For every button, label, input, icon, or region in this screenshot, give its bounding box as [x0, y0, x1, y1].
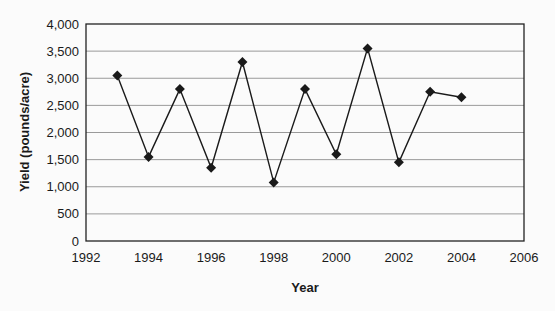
y-tick-label: 3,500	[46, 44, 79, 59]
diamond-marker	[363, 43, 373, 53]
gridlines	[86, 51, 524, 214]
diamond-marker	[456, 92, 466, 102]
y-axis-label: Yield (pounds/acre)	[17, 72, 32, 192]
y-axis-ticks: 05001,0001,5002,0002,5003,0003,5004,000	[46, 17, 79, 249]
diamond-marker	[237, 57, 247, 67]
y-tick-label: 0	[72, 234, 79, 249]
y-tick-label: 3,000	[46, 71, 79, 86]
diamond-marker	[269, 177, 279, 187]
diamond-marker	[394, 157, 404, 167]
diamond-marker	[300, 84, 310, 94]
x-tick-label: 1994	[134, 250, 163, 265]
diamond-marker	[331, 149, 341, 159]
x-axis-label: Year	[291, 280, 318, 295]
x-tick-label: 2006	[510, 250, 539, 265]
diamond-marker	[112, 71, 122, 81]
x-axis-ticks: 19921994199619982000200220042006	[72, 250, 539, 265]
diamond-marker	[206, 163, 216, 173]
x-tick-label: 2004	[447, 250, 476, 265]
x-tick-label: 1996	[197, 250, 226, 265]
diamond-marker	[175, 84, 185, 94]
y-tick-label: 1,000	[46, 179, 79, 194]
y-tick-label: 4,000	[46, 17, 79, 32]
x-tick-label: 1998	[259, 250, 288, 265]
y-tick-label: 500	[57, 206, 79, 221]
y-tick-label: 1,500	[46, 152, 79, 167]
diamond-marker	[144, 152, 154, 162]
yield-line-chart: 05001,0001,5002,0002,5003,0003,5004,000 …	[0, 0, 555, 311]
diamond-marker	[425, 87, 435, 97]
x-tick-label: 2000	[322, 250, 351, 265]
y-tick-label: 2,000	[46, 125, 79, 140]
yield-series-markers	[112, 43, 466, 187]
y-tick-label: 2,500	[46, 98, 79, 113]
x-tick-label: 2002	[384, 250, 413, 265]
x-tick-label: 1992	[72, 250, 101, 265]
yield-series-line	[117, 48, 461, 182]
